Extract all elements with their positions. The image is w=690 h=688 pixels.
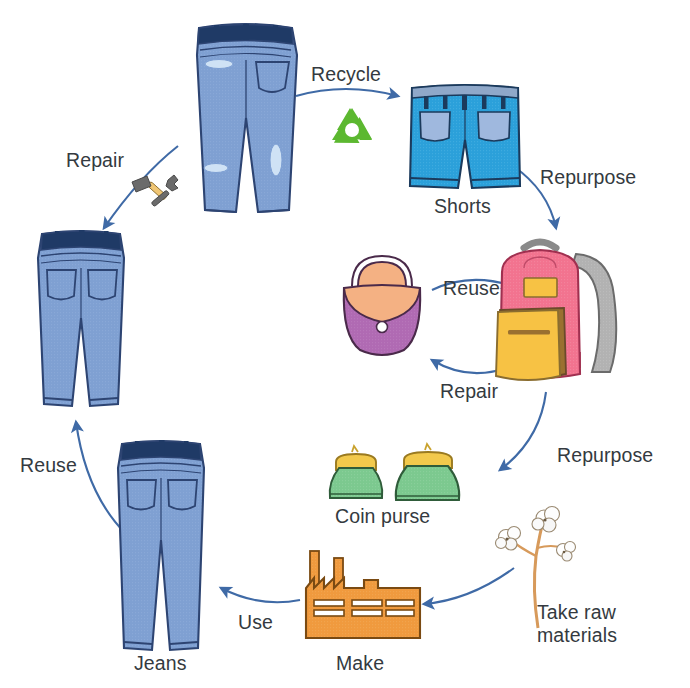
new-jeans-icon [118, 440, 204, 650]
label-reuse-middle: Reuse [443, 277, 500, 300]
label-repurpose-top-right: Repurpose [540, 166, 636, 189]
backpack-icon [496, 242, 616, 380]
diagram-canvas [0, 0, 690, 688]
hammer-wrench-icon [132, 175, 178, 207]
node-label-make: Make [336, 652, 384, 675]
circular-economy-diagram: Recycle Repair Repurpose Reuse Repair Re… [0, 0, 690, 688]
label-use: Use [238, 611, 273, 634]
handbag-icon [344, 256, 420, 355]
flow-arrow-repurpose-lower-right [500, 392, 546, 470]
factory-icon [306, 551, 420, 638]
coin-purse-icon-right [396, 444, 460, 500]
node-label-jeans: Jeans [134, 652, 187, 675]
coin-purse-icon-left [330, 446, 383, 498]
flow-arrow-use [221, 588, 300, 602]
label-reuse-left: Reuse [20, 454, 77, 477]
node-label-coin-purse: Coin purse [335, 505, 430, 528]
label-take-raw-materials: Take raw materials [537, 601, 667, 647]
node-label-shorts: Shorts [434, 195, 491, 218]
label-repair-top-left: Repair [66, 149, 124, 172]
flow-arrow-raw-to-make [424, 568, 514, 604]
torn-jeans-icon [197, 24, 297, 212]
repaired-jeans-icon [38, 230, 124, 406]
label-repair-middle: Repair [440, 380, 498, 403]
label-recycle: Recycle [311, 63, 381, 86]
denim-shorts-icon [410, 85, 520, 188]
label-repurpose-lower-right: Repurpose [557, 444, 653, 467]
flow-arrow-recycle [296, 89, 398, 96]
recycle-symbol-icon [327, 108, 378, 154]
